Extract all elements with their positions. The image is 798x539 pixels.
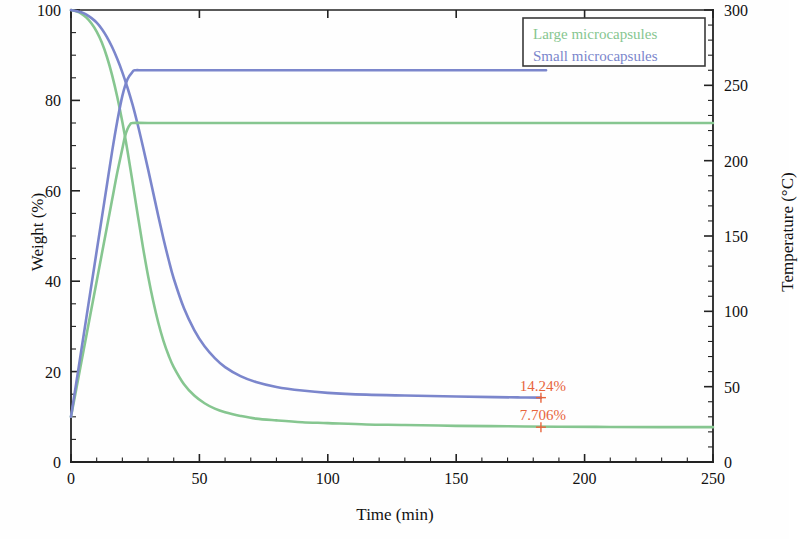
x-tick-label: 150 xyxy=(444,470,468,487)
y-axis-left-title: Weight (%) xyxy=(28,172,48,292)
legend-box: Large microcapsulesSmall microcapsules xyxy=(523,18,705,66)
x-tick-label: 250 xyxy=(701,470,725,487)
series-line-1 xyxy=(71,10,541,398)
y-left-tick-label: 0 xyxy=(53,454,61,471)
series-line-2 xyxy=(71,123,713,417)
x-tick-label: 0 xyxy=(67,470,75,487)
y-right-tick-label: 150 xyxy=(724,228,748,245)
y-left-tick-label: 80 xyxy=(45,92,61,109)
y-right-tick-label: 100 xyxy=(724,303,748,320)
y-axis-right-ticks: 050100150200250300 xyxy=(704,2,748,471)
annotation-label: 7.706% xyxy=(520,407,566,423)
y-left-tick-label: 20 xyxy=(45,364,61,381)
x-tick-label: 100 xyxy=(316,470,340,487)
y-left-tick-label: 100 xyxy=(37,2,61,19)
y-right-tick-label: 0 xyxy=(724,454,732,471)
legend-entry-1: Small microcapsules xyxy=(533,48,658,64)
legend-entry-0: Large microcapsules xyxy=(533,26,657,42)
y-right-tick-label: 300 xyxy=(724,2,748,19)
x-tick-label: 50 xyxy=(191,470,207,487)
x-axis-title: Time (min) xyxy=(310,505,480,525)
y-right-tick-label: 50 xyxy=(724,379,740,396)
series-line-0 xyxy=(71,10,713,427)
annotations-group: 14.24%7.706% xyxy=(520,378,566,433)
y-right-tick-label: 200 xyxy=(724,153,748,170)
annotation-label: 14.24% xyxy=(520,378,566,394)
data-series-group xyxy=(71,10,713,427)
y-right-tick-label: 250 xyxy=(724,77,748,94)
y-axis-right-title: Temperature (°C) xyxy=(778,147,798,317)
x-tick-label: 200 xyxy=(573,470,597,487)
